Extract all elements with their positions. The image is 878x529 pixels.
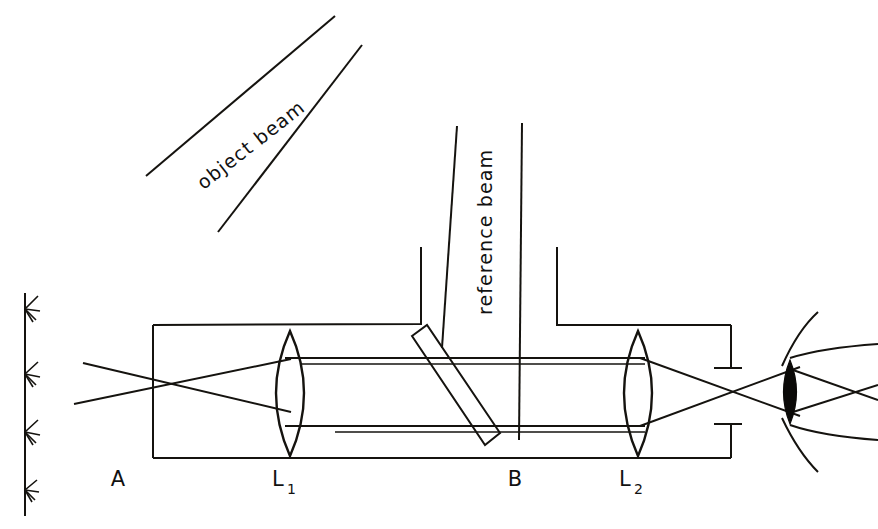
wavefront-arrow-icon — [25, 480, 39, 502]
label-lens-l1-letter: L — [272, 467, 284, 491]
output-ray-upper — [640, 358, 800, 416]
wavefront-arrow-icon — [25, 362, 40, 387]
diagram-canvas: A B L 1 L 2 object beam reference beam — [0, 0, 878, 529]
label-lens-l1-subscript: 1 — [287, 481, 296, 497]
lens-l1 — [276, 331, 304, 456]
lens-l1-body — [276, 331, 304, 456]
output-ray-extend-lower — [793, 385, 878, 412]
collimated-beam-lines — [285, 358, 645, 432]
wavefront-arrow-icon — [25, 420, 40, 445]
optical-diagram-figure: A B L 1 L 2 object beam reference beam — [0, 0, 878, 529]
label-lens-l2-subscript: 2 — [634, 481, 643, 497]
eye-lower-lid-inner — [782, 418, 818, 472]
output-rays-to-eye — [640, 358, 878, 426]
label-lens-l2: L 2 — [619, 467, 643, 497]
input-rays-at-point-a — [74, 359, 291, 412]
eye-lower-lid-outer — [790, 425, 878, 440]
reference-beam-ray-left — [442, 126, 457, 348]
lens-l2-body — [624, 331, 652, 456]
observer-eye — [782, 312, 878, 472]
wavefront-arrow-icon — [25, 296, 40, 322]
housing-top-right-rail — [557, 247, 731, 325]
input-ray-lower — [74, 359, 291, 404]
label-object-beam: object beam — [192, 96, 308, 194]
input-ray-upper — [83, 363, 291, 412]
label-lens-l2-letter: L — [619, 467, 631, 491]
label-point-a: A — [111, 467, 126, 491]
output-ray-extend-upper — [793, 370, 878, 400]
eye-upper-lid-outer — [790, 344, 878, 358]
wavefront-axis — [25, 293, 40, 516]
lens-l2 — [624, 331, 652, 456]
reference-beam-ray-right — [519, 123, 522, 440]
eye-upper-lid-inner — [782, 312, 818, 366]
object-beam-rays — [146, 16, 362, 232]
output-ray-lower — [640, 367, 800, 426]
label-point-b: B — [508, 467, 522, 491]
label-reference-beam: reference beam — [474, 149, 496, 315]
housing-top-left-rail — [153, 247, 421, 325]
label-lens-l1: L 1 — [272, 467, 296, 497]
